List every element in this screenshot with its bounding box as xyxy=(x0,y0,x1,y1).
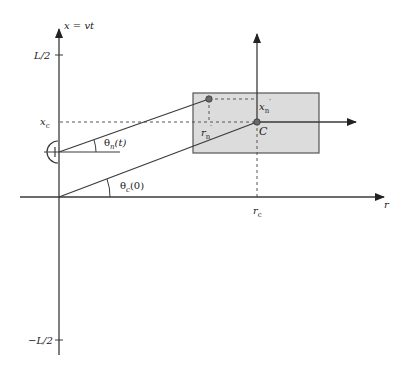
rc-label: rc xyxy=(253,205,262,219)
theta-n-arc xyxy=(94,140,96,152)
tick-label-neg-l-half: −L/2 xyxy=(28,335,53,346)
geometry-diagram: x = vt r L/2 −L/2 xc rc xn′ rn′ C θn(t) … xyxy=(0,0,406,369)
x-axis-label: x = vt xyxy=(64,20,95,31)
theta-c-label: θc(0) xyxy=(120,180,144,194)
r-axis-label: r xyxy=(384,199,390,210)
point-n xyxy=(206,96,212,102)
xc-label: xc xyxy=(40,116,50,130)
diagram-canvas: x = vt r L/2 −L/2 xc rc xn′ rn′ C θn(t) … xyxy=(0,0,406,369)
ray-theta-n xyxy=(59,99,209,152)
tick-label-l-half: L/2 xyxy=(33,50,50,61)
theta-n-label: θn(t) xyxy=(104,137,126,151)
ray-theta-c xyxy=(59,122,257,197)
point-c-label: C xyxy=(259,125,268,138)
theta-c-arc xyxy=(107,179,110,197)
